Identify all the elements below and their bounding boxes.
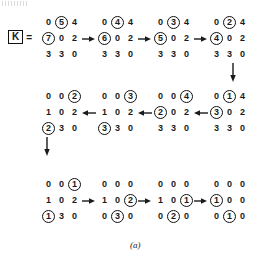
matrix-cell: 0 [98,208,111,224]
matrix-cell: 7 [42,30,55,46]
matrix-m10: 0 0 0 1 0 2 0 3 0 [98,176,137,224]
matrix-cell: 0 [154,208,167,224]
arrow-right [138,35,152,43]
matrix-m3: 0 3 4 5 0 2 3 3 0 [154,14,193,62]
matrix-m1: 0 5 4 7 0 2 3 3 0 [42,14,81,62]
matrix-cell: 2 [180,104,193,120]
matrix-cell: 2 [68,192,81,208]
arrow-left [82,109,96,117]
matrix-cell: 0 [210,208,223,224]
matrix-cell: 0 [210,14,223,30]
matrix-cell: 0 [210,88,223,104]
k-symbol-box: K [8,30,23,44]
matrix-cell: 0 [180,120,193,136]
matrix-cell: 2 [180,30,193,46]
arrow-right [82,35,96,43]
matrix-cell: 0 [42,88,55,104]
matrix-cell: 4 [236,14,249,30]
arrow-right [138,197,152,205]
matrix-label-k: K = [8,30,32,44]
matrix-cell: 2 [124,30,137,46]
matrix-cell: 2 [236,30,249,46]
matrix-cell: 4 [236,88,249,104]
matrix-cell: 0 [111,104,124,120]
matrix-cell: 0 [167,88,180,104]
matrix-cell: 0 [180,176,193,192]
matrix-cell: 0 [68,46,81,62]
arrow-right [82,197,96,205]
matrix-cell: 2 [223,14,236,30]
matrix-cell: 5 [55,14,68,30]
matrix-m9: 0 0 1 1 0 2 1 3 0 [42,176,81,224]
matrix-cell: 0 [223,104,236,120]
matrix-cell: 3 [42,46,55,62]
matrix-cell: 0 [42,14,55,30]
matrix-cell: 2 [68,88,81,104]
matrix-cell: 2 [42,120,55,136]
matrix-cell: 3 [154,46,167,62]
matrix-cell: 0 [210,176,223,192]
matrix-m6: 0 0 4 2 0 2 3 3 0 [154,88,193,136]
matrix-cell: 3 [154,120,167,136]
matrix-cell: 5 [154,30,167,46]
matrix-cell: 1 [180,192,193,208]
matrix-cell: 3 [167,120,180,136]
matrix-cell: 0 [55,176,68,192]
matrix-cell: 3 [167,14,180,30]
matrix-cell: 3 [111,120,124,136]
matrix-cell: 6 [98,30,111,46]
matrix-cell: 3 [210,104,223,120]
matrix-cell: 0 [236,192,249,208]
matrix-cell: 4 [68,14,81,30]
matrix-cell: 2 [124,104,137,120]
matrix-cell: 0 [236,208,249,224]
matrix-cell: 0 [124,46,137,62]
matrix-cell: 3 [124,88,137,104]
matrix-cell: 1 [98,104,111,120]
matrix-cell: 0 [124,176,137,192]
matrix-cell: 2 [154,104,167,120]
matrix-cell: 0 [124,120,137,136]
matrix-cell: 0 [55,104,68,120]
matrix-cell: 0 [236,176,249,192]
matrix-cell: 0 [154,88,167,104]
matrix-cell: 2 [68,104,81,120]
matrix-cell: 0 [167,192,180,208]
arrow-left [138,109,152,117]
matrix-cell: 0 [236,46,249,62]
matrix-cell: 1 [98,192,111,208]
matrix-cell: 4 [210,30,223,46]
matrix-m4: 0 2 4 4 0 2 3 3 0 [210,14,249,62]
matrix-cell: 0 [223,192,236,208]
matrix-cell: 1 [154,192,167,208]
matrix-cell: 0 [68,208,81,224]
matrix-cell: 0 [98,176,111,192]
matrix-cell: 2 [236,104,249,120]
matrix-cell: 4 [124,14,137,30]
matrix-cell: 0 [180,46,193,62]
matrix-m12: 0 0 0 1 0 0 0 1 0 [210,176,249,224]
matrix-cell: 0 [167,30,180,46]
matrix-cell: 0 [154,176,167,192]
matrix-m5: 0 1 4 3 0 2 3 3 0 [210,88,249,136]
equals-sign: = [26,32,32,43]
matrix-cell: 0 [98,14,111,30]
arrow-right [194,197,208,205]
matrix-cell: 0 [154,14,167,30]
arrow-left [194,109,208,117]
matrix-cell: 3 [111,208,124,224]
matrix-cell: 1 [223,88,236,104]
matrix-cell: 1 [42,208,55,224]
matrix-cell: 1 [42,192,55,208]
matrix-m11: 0 0 0 1 0 1 0 2 0 [154,176,193,224]
matrix-cell: 0 [111,30,124,46]
matrix-cell: 4 [180,14,193,30]
scan-artifact [2,1,28,6]
matrix-cell: 4 [111,14,124,30]
matrix-cell: 3 [167,46,180,62]
matrix-cell: 0 [55,30,68,46]
matrix-cell: 0 [111,192,124,208]
matrix-m2: 0 4 4 6 0 2 3 3 0 [98,14,137,62]
matrix-cell: 0 [223,30,236,46]
matrix-cell: 0 [98,88,111,104]
